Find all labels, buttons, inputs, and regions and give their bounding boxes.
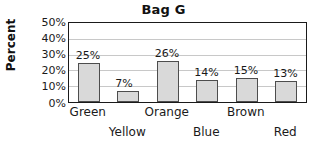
gridline xyxy=(69,86,306,87)
y-axis-tick-label: 40% xyxy=(32,33,66,44)
x-axis-tick-label: Green xyxy=(48,106,128,118)
x-axis-tick-label: Blue xyxy=(166,126,246,138)
bar-value-label: 7% xyxy=(115,78,132,89)
y-axis-label: Percent xyxy=(4,15,18,75)
bar-value-label: 13% xyxy=(273,68,297,79)
x-axis-tick-label: Orange xyxy=(127,106,207,118)
y-axis-tick-labels: 50%40%30%20%10%0% xyxy=(30,0,66,146)
bar xyxy=(275,81,297,102)
bar xyxy=(157,61,179,102)
y-axis-tick-label: 30% xyxy=(32,49,66,60)
bar xyxy=(236,78,258,102)
bar-value-label: 25% xyxy=(76,50,100,61)
gridline xyxy=(69,55,306,56)
x-axis-tick-label: Brown xyxy=(206,106,286,118)
gridline xyxy=(69,70,306,71)
y-axis-tick-label: 10% xyxy=(32,81,66,92)
y-axis-tick-label: 20% xyxy=(32,65,66,76)
bar-value-label: 15% xyxy=(234,65,258,76)
bar xyxy=(78,63,100,103)
bar-value-label: 14% xyxy=(194,67,218,78)
bar-chart: Bag G Percent 50%40%30%20%10%0% 25%7%26%… xyxy=(0,0,327,146)
x-axis-tick-label: Red xyxy=(245,126,325,138)
bar-value-label: 26% xyxy=(155,48,179,59)
y-axis-tick-label: 50% xyxy=(32,17,66,28)
bar xyxy=(117,91,139,102)
bar xyxy=(196,80,218,102)
x-axis-tick-label: Yellow xyxy=(87,126,167,138)
plot-area: 25%7%26%14%15%13% xyxy=(68,22,307,103)
gridline xyxy=(69,39,306,40)
